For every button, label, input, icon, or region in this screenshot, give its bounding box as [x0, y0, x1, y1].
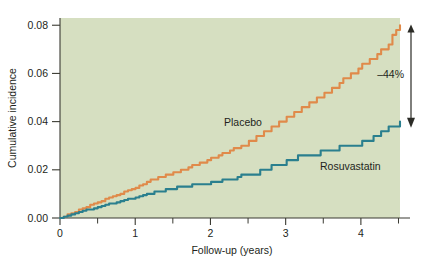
x-tick-label: 2 [208, 227, 214, 239]
annotation-layer [407, 24, 415, 127]
y-axis-title: Cumulative incidence [6, 68, 18, 168]
y-axis-ticks: 0.000.020.040.060.08 [28, 19, 60, 224]
y-tick-label: 0.08 [28, 19, 49, 31]
risk-reduction-label: –44% [377, 68, 404, 80]
risk-reduction-arrowhead-up [407, 24, 414, 32]
cumulative-incidence-chart: 0.000.020.040.060.08 01234 Placebo Rosuv… [0, 0, 431, 266]
x-axis-ticks: 01234 [57, 218, 398, 239]
x-tick-label: 3 [283, 227, 289, 239]
x-axis-title: Follow-up (years) [191, 244, 272, 256]
y-tick-label: 0.06 [28, 67, 49, 79]
y-tick-label: 0.00 [28, 212, 49, 224]
x-tick-label: 0 [57, 227, 63, 239]
x-tick-label: 4 [358, 227, 364, 239]
y-tick-label: 0.04 [28, 115, 49, 127]
y-tick-label: 0.02 [28, 163, 49, 175]
series-label-rosuvastatin: Rosuvastatin [320, 160, 381, 172]
series-label-placebo: Placebo [224, 116, 262, 128]
chart-figure: 0.000.020.040.060.08 01234 Placebo Rosuv… [0, 0, 431, 266]
risk-reduction-arrowhead-down [407, 118, 415, 128]
x-tick-label: 1 [132, 227, 138, 239]
